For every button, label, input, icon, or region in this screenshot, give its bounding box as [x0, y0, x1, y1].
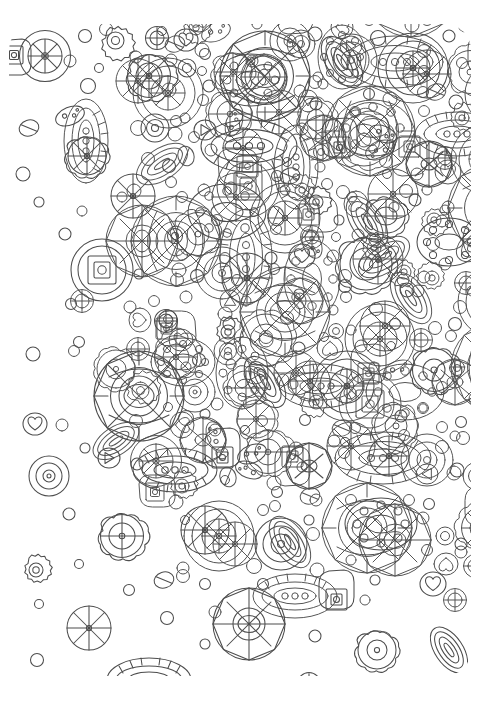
doodle-pattern-artwork	[9, 24, 471, 676]
artwork-frame	[9, 24, 471, 676]
coloring-page: Doodle Circles Coloring Page Seamless ti…	[0, 0, 500, 707]
